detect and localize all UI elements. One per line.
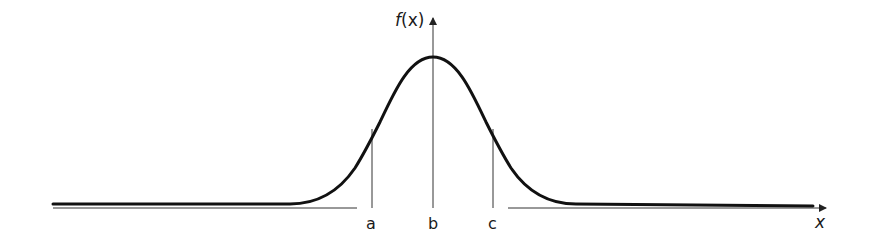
x-axis-label: x — [815, 214, 825, 230]
marker-label-b: b — [428, 216, 438, 232]
marker-label-a: a — [366, 216, 376, 232]
marker-label-c: c — [488, 216, 497, 232]
y-axis-label: f(x) — [395, 12, 424, 28]
bell-curve-diagram — [0, 0, 869, 248]
y-axis-label-arg: (x) — [401, 10, 424, 30]
